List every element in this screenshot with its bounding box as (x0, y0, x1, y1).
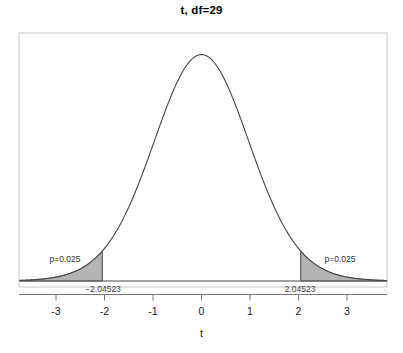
critical-value-label-left: −2.04523 (85, 284, 121, 294)
x-tick-label-neg3: -3 (51, 305, 60, 317)
x-tick-label-1: 1 (247, 305, 253, 317)
t-distribution-plot: t, df=29 -3 -2 -1 0 1 2 3 −2.04523 2.045… (0, 0, 403, 353)
tail-probability-label-left: p=0.025 (50, 254, 81, 264)
x-axis-title: t (0, 327, 403, 339)
plot-canvas (0, 0, 403, 353)
x-tick-label-3: 3 (344, 305, 350, 317)
x-tick-label-neg1: -1 (148, 305, 157, 317)
x-tick-label-neg2: -2 (100, 305, 109, 317)
x-tick-label-0: 0 (199, 305, 205, 317)
x-axis-ticks (56, 295, 347, 301)
critical-value-label-right: 2.04523 (285, 284, 316, 294)
plot-box-frame (19, 33, 387, 287)
x-tick-label-2: 2 (296, 305, 302, 317)
tail-probability-label-right: p=0.025 (325, 254, 356, 264)
